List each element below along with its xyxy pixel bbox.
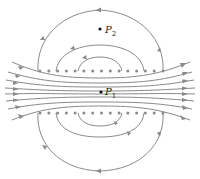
point-p1-marker: [99, 90, 102, 93]
point-p2-marker: [98, 27, 101, 30]
point-p1: P1: [99, 86, 116, 100]
point-p2-label: P2: [104, 24, 116, 38]
wire-row-bottom: [39, 112, 165, 115]
point-p2: P2: [98, 24, 116, 38]
point-p1-label: P1: [104, 86, 116, 100]
wire-row-top: [39, 70, 165, 73]
solenoid-field-diagram: P2 P1: [0, 0, 200, 179]
